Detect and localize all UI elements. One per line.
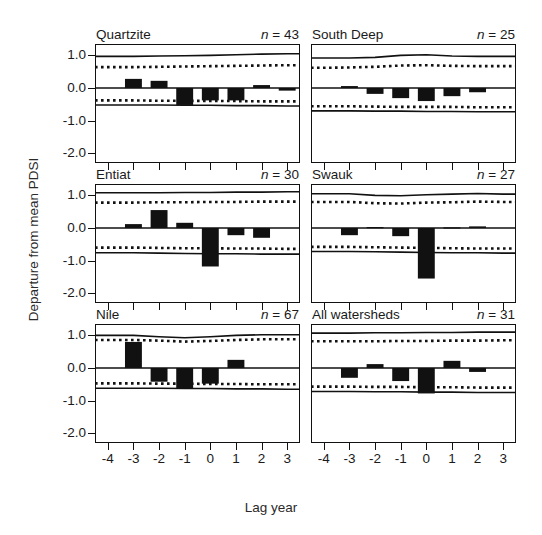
bar xyxy=(367,364,384,368)
x-tick xyxy=(349,443,350,450)
x-tick-label: 0 xyxy=(423,452,431,466)
bar xyxy=(469,226,486,228)
panel-swauk: Swaukn = 27 xyxy=(311,184,516,303)
lower-dotted-confidence-line xyxy=(95,248,300,249)
x-tick xyxy=(236,303,237,310)
x-tick-label: -3 xyxy=(127,452,139,466)
lower-confidence-line xyxy=(95,388,300,389)
x-tick-label: 3 xyxy=(283,452,291,466)
bar xyxy=(279,88,296,91)
bar xyxy=(341,368,358,378)
panel-title: Swauk xyxy=(312,167,353,182)
panel-title: All watersheds xyxy=(312,307,400,322)
bar xyxy=(202,368,219,384)
y-axis-title: Departure from mean PDSI xyxy=(26,115,41,365)
x-tick xyxy=(426,163,427,170)
y-tick-label: -1.0 xyxy=(63,254,86,268)
bar xyxy=(227,228,244,235)
x-tick xyxy=(452,163,453,170)
upper-confidence-line xyxy=(95,335,300,338)
panel-all-watersheds: All watershedsn = 31-4-3-2-10123 xyxy=(311,324,516,443)
x-tick xyxy=(401,163,402,170)
bar xyxy=(151,81,168,88)
x-tick-label: 2 xyxy=(258,452,266,466)
y-tick xyxy=(88,293,95,294)
x-tick xyxy=(159,303,160,310)
x-tick xyxy=(401,303,402,310)
bar xyxy=(469,88,486,92)
x-tick xyxy=(236,163,237,170)
x-tick xyxy=(426,443,427,450)
upper-confidence-line xyxy=(311,55,516,58)
figure-chart-grid: Departure from mean PDSI Lag year Quartz… xyxy=(0,0,542,535)
x-tick xyxy=(503,443,504,450)
x-tick-label: -1 xyxy=(179,452,191,466)
x-tick xyxy=(375,443,376,450)
lower-dotted-confidence-line xyxy=(311,247,516,249)
panel-title: Entiat xyxy=(96,167,131,182)
panel-title: Nile xyxy=(96,307,119,322)
bar xyxy=(227,360,244,368)
panel-south-deep: South Deepn = 25 xyxy=(311,44,516,163)
bar xyxy=(443,88,460,96)
bar xyxy=(392,368,409,381)
lower-confidence-line xyxy=(95,253,300,254)
x-tick-label: 0 xyxy=(207,452,215,466)
x-tick xyxy=(185,163,186,170)
panel-title: South Deep xyxy=(312,27,383,42)
x-tick-label: -4 xyxy=(318,452,330,466)
bar xyxy=(125,79,142,88)
bar xyxy=(253,228,270,238)
y-tick-label: -2.0 xyxy=(63,426,86,440)
panel-plot-area xyxy=(95,184,300,303)
y-tick-label: 1.0 xyxy=(67,329,86,343)
panel-quartzite: Quartziten = 431.00.0-1.0-2.0 xyxy=(95,44,300,163)
panel-nile: Nilen = 671.00.0-1.0-2.0-4-3-2-10123 xyxy=(95,324,300,443)
x-tick-label: -2 xyxy=(153,452,165,466)
lower-dotted-confidence-line xyxy=(311,387,516,388)
lower-confidence-line xyxy=(95,105,300,106)
x-tick-label: 1 xyxy=(232,452,240,466)
bar xyxy=(341,228,358,235)
x-tick xyxy=(185,303,186,310)
bar xyxy=(341,86,358,88)
x-tick xyxy=(401,443,402,450)
x-tick-label: 1 xyxy=(448,452,456,466)
bar xyxy=(418,368,435,393)
x-tick xyxy=(210,303,211,310)
panel-plot-area xyxy=(95,44,300,163)
y-tick xyxy=(88,153,95,154)
bar xyxy=(469,368,486,372)
lower-confidence-line xyxy=(311,111,516,112)
lower-dotted-confidence-line xyxy=(95,100,300,101)
bar xyxy=(202,88,219,100)
panel-sample-size: n = 31 xyxy=(477,307,515,322)
upper-dotted-confidence-line xyxy=(95,65,300,67)
y-tick-label: -1.0 xyxy=(63,394,86,408)
bar xyxy=(418,88,435,101)
x-tick xyxy=(159,443,160,450)
bar xyxy=(151,368,168,382)
y-tick xyxy=(88,195,95,196)
x-tick xyxy=(452,443,453,450)
bar xyxy=(253,85,270,88)
y-tick-label: 0.0 xyxy=(67,81,86,95)
y-tick-label: -2.0 xyxy=(63,286,86,300)
x-tick xyxy=(478,443,479,450)
lower-dotted-confidence-line xyxy=(95,383,300,384)
x-tick xyxy=(262,443,263,450)
y-tick-label: 1.0 xyxy=(67,49,86,63)
y-tick xyxy=(88,55,95,56)
upper-dotted-confidence-line xyxy=(311,65,516,68)
x-tick-label: -3 xyxy=(343,452,355,466)
upper-confidence-line xyxy=(95,192,300,193)
x-tick-label: -1 xyxy=(395,452,407,466)
y-tick xyxy=(88,121,95,122)
upper-dotted-confidence-line xyxy=(311,202,516,204)
x-tick-label: 3 xyxy=(499,452,507,466)
upper-confidence-line xyxy=(311,193,516,195)
panel-plot-area xyxy=(311,44,516,163)
y-tick-label: -1.0 xyxy=(63,114,86,128)
panel-sample-size: n = 30 xyxy=(261,167,299,182)
x-tick-label: 2 xyxy=(474,452,482,466)
